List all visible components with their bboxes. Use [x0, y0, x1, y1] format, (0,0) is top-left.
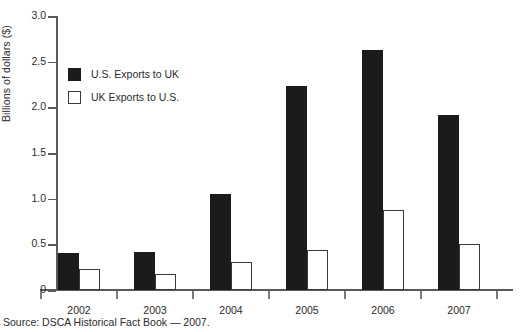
y-axis-tick-label: 1.0 [2, 192, 46, 204]
y-axis-tick-label: 2.0 [2, 100, 46, 112]
x-axis-tick [420, 291, 422, 299]
y-axis-tick [48, 244, 56, 246]
bar [362, 50, 383, 290]
x-axis-label: 2003 [120, 304, 190, 316]
bar [155, 274, 176, 290]
legend-label: U.S. Exports to UK [91, 68, 179, 80]
y-axis-tick [48, 62, 56, 64]
bar-chart-figure: Billions of dollars ($) 00.51.01.52.02.5… [0, 0, 529, 332]
bar [79, 269, 100, 290]
bar [383, 210, 404, 290]
x-axis-tick [192, 291, 194, 299]
legend-item-uk-exports-to-us: UK Exports to U.S. [68, 87, 248, 107]
bar [307, 250, 328, 290]
y-axis-tick-label: 1.5 [2, 146, 46, 158]
bar [459, 244, 480, 290]
y-axis-tick [48, 153, 56, 155]
x-axis-label: 2004 [196, 304, 266, 316]
legend-swatch-filled-square-icon [68, 68, 81, 81]
bar [134, 252, 155, 290]
y-axis-tick-label: 3.0 [2, 9, 46, 21]
x-axis-tick [116, 291, 118, 299]
x-axis-tick [496, 291, 498, 299]
y-axis-tick [48, 290, 56, 292]
x-axis-label: 2006 [348, 304, 418, 316]
bar [210, 194, 231, 290]
x-axis-label: 2007 [424, 304, 494, 316]
y-axis-tick [48, 107, 56, 109]
y-axis-tick-label: 0.5 [2, 237, 46, 249]
bars-layer [58, 16, 513, 290]
source-note: Source: DSCA Historical Fact Book — 2007… [3, 316, 210, 328]
chart-legend: U.S. Exports to UK UK Exports to U.S. [68, 64, 248, 110]
bar [58, 253, 79, 290]
x-axis-label: 2005 [272, 304, 342, 316]
bar [438, 115, 459, 290]
x-axis-tick [268, 291, 270, 299]
x-axis-tick [40, 291, 42, 299]
y-axis-tick [48, 199, 56, 201]
y-axis-tick [48, 16, 56, 18]
x-axis-tick [344, 291, 346, 299]
legend-label: UK Exports to U.S. [91, 91, 179, 103]
x-axis-label: 2002 [44, 304, 114, 316]
y-axis-tick-label: 2.5 [2, 55, 46, 67]
bar [286, 86, 307, 290]
cropped-title-remnant [0, 0, 529, 5]
legend-swatch-outlined-square-icon [68, 91, 81, 104]
legend-item-us-exports-to-uk: U.S. Exports to UK [68, 64, 248, 84]
bar [231, 262, 252, 290]
